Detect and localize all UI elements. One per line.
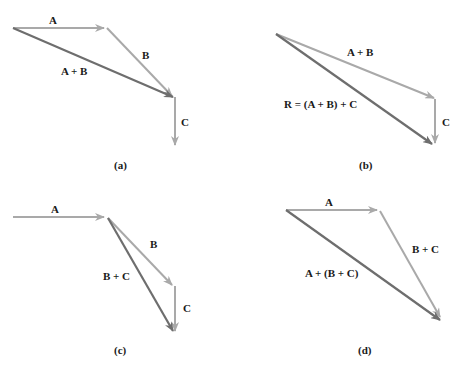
label-a: A [51, 203, 59, 215]
caption-d: (d) [358, 344, 372, 357]
label-c: C [181, 116, 189, 128]
label-a-plus-b: A + B [347, 46, 374, 58]
panel-b: A + B R = (A + B) + C C (b) [276, 34, 450, 172]
label-b: B [150, 238, 158, 250]
vector-addition-diagram: A B A + B C (a) A + B R = (A + B) + C C … [0, 0, 461, 369]
panel-c: A B B + C C (c) [13, 203, 191, 357]
label-a: A [49, 14, 57, 26]
label-b: B [142, 49, 150, 61]
vector-a-plus-b-plus-c-arrow [286, 210, 440, 320]
caption-a: (a) [114, 159, 127, 172]
vector-b-plus-c-arrow [380, 211, 440, 317]
label-c: C [442, 116, 450, 128]
label-c: C [183, 302, 191, 314]
label-r: R = (A + B) + C [284, 98, 357, 111]
label-b-plus-c: B + C [412, 243, 439, 255]
vector-b-arrow [107, 28, 172, 96]
label-a-plus-b-plus-c: A + (B + C) [305, 267, 359, 280]
panel-a: A B A + B C (a) [13, 14, 189, 172]
vector-a-plus-b-arrow [13, 28, 173, 97]
label-a: A [325, 196, 333, 208]
label-b-plus-c: B + C [103, 270, 130, 282]
caption-b: (b) [359, 159, 373, 172]
caption-c: (c) [114, 344, 127, 357]
label-a-plus-b: A + B [61, 65, 88, 77]
panel-d: A B + C A + (B + C) (d) [286, 196, 440, 357]
